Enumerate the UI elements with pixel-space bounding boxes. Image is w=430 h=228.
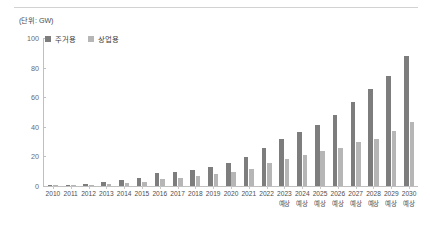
x-tick-mark (356, 186, 357, 189)
x-tick-mark (89, 186, 90, 189)
x-tick-label: 2021 (240, 189, 258, 199)
chart-figure: (단위: GW) 주거용상업용 020406080100 20102011201… (0, 0, 430, 228)
bar-residential (279, 139, 284, 186)
x-tick-label: 2020 (222, 189, 240, 199)
x-tick-label: 2022 (258, 189, 276, 199)
bar-group (293, 38, 311, 186)
bar-group (169, 38, 187, 186)
bar-commercial (231, 172, 236, 186)
plot-area (44, 38, 418, 186)
y-tick-label: 80 (31, 63, 39, 72)
bar-residential (262, 148, 267, 186)
bar-commercial (374, 139, 379, 186)
x-tick-year: 2016 (152, 190, 167, 197)
x-tick-year: 2014 (117, 190, 132, 197)
y-tick-mark (43, 186, 46, 187)
x-tick-mark (124, 186, 125, 189)
bar-group (347, 38, 365, 186)
bar-commercial (392, 131, 397, 187)
bar-group (44, 38, 62, 186)
x-tick-forecast-note: 예상 (276, 199, 294, 209)
x-tick-label: 2023예상 (276, 189, 294, 208)
x-tick-label: 2027예상 (347, 189, 365, 208)
bar-group (258, 38, 276, 186)
bar-commercial (338, 148, 343, 186)
bar-residential (155, 173, 160, 186)
bar-commercial (160, 179, 165, 186)
bar-group (115, 38, 133, 186)
x-tick-year: 2028 (366, 190, 381, 197)
bar-commercial (214, 174, 219, 186)
x-tick-year: 2029 (384, 190, 399, 197)
bar-residential (386, 76, 391, 186)
bar-commercial (196, 176, 201, 186)
x-tick-year: 2027 (348, 190, 363, 197)
x-tick-year: 2011 (64, 190, 78, 197)
x-tick-label: 2013 (97, 189, 115, 199)
legend-item-residential: 주거용 (45, 33, 75, 44)
x-tick-label: 2011 (62, 189, 80, 199)
x-tick-mark (391, 186, 392, 189)
legend-label: 상업용 (98, 33, 118, 44)
y-tick-label: 20 (31, 152, 39, 161)
bar-group (204, 38, 222, 186)
x-tick-label: 2017 (169, 189, 187, 199)
x-tick-year: 2025 (313, 190, 328, 197)
bar-residential (351, 102, 356, 186)
top-divider (14, 7, 418, 8)
x-tick-label: 2014 (115, 189, 133, 199)
bar-group (151, 38, 169, 186)
bar-group (382, 38, 400, 186)
bar-residential (315, 125, 320, 186)
x-tick-mark (53, 186, 54, 189)
bar-residential (190, 170, 195, 186)
x-tick-year: 2019 (206, 190, 221, 197)
x-tick-forecast-note: 예상 (347, 199, 365, 209)
x-tick-year: 2010 (46, 190, 61, 197)
x-axis-tick-labels: 2010201120122013201420152016201720182019… (44, 189, 418, 225)
x-tick-forecast-note: 예상 (382, 199, 400, 209)
bar-group (311, 38, 329, 186)
x-tick-mark (71, 186, 72, 189)
x-tick-year: 2022 (259, 190, 274, 197)
bar-group (133, 38, 151, 186)
bar-commercial (267, 163, 272, 186)
x-tick-year: 2024 (295, 190, 310, 197)
x-tick-year: 2012 (81, 190, 96, 197)
legend-item-commercial: 상업용 (88, 33, 118, 44)
x-tick-label: 2015 (133, 189, 151, 199)
bar-group (186, 38, 204, 186)
y-axis-tick-labels: 020406080100 (14, 0, 39, 228)
x-tick-label: 2029예상 (382, 189, 400, 208)
bar-residential (244, 157, 249, 186)
y-tick-label: 60 (31, 93, 39, 102)
y-tick-label: 100 (27, 34, 39, 43)
bar-group (400, 38, 418, 186)
legend-swatch-residential (45, 36, 51, 42)
bar-residential (101, 182, 106, 186)
bar-residential (208, 167, 213, 186)
bar-residential (137, 178, 142, 186)
y-tick-mark (43, 97, 46, 98)
bar-residential (404, 56, 409, 186)
x-tick-year: 2017 (170, 190, 185, 197)
x-tick-mark (160, 186, 161, 189)
bar-residential (333, 115, 338, 186)
bar-residential (48, 185, 53, 186)
bar-residential (83, 184, 88, 186)
x-tick-year: 2026 (331, 190, 346, 197)
bar-commercial (410, 122, 415, 186)
bar-commercial (53, 185, 58, 186)
bar-commercial (285, 159, 290, 186)
y-tick-label: 0 (35, 182, 39, 191)
x-tick-label: 2026예상 (329, 189, 347, 208)
bar-group (276, 38, 294, 186)
x-tick-year: 2023 (277, 190, 292, 197)
x-tick-forecast-note: 예상 (293, 199, 311, 209)
bar-residential (173, 172, 178, 186)
bar-group (80, 38, 98, 186)
bar-commercial (142, 182, 147, 186)
x-tick-mark (302, 186, 303, 189)
x-tick-forecast-note: 예상 (400, 199, 418, 209)
x-tick-label: 2019 (204, 189, 222, 199)
